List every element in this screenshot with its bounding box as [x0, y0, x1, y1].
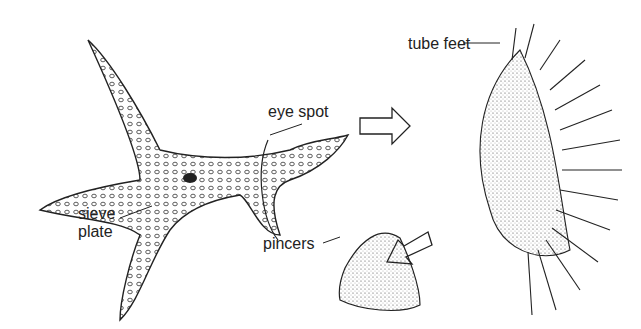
pincers-leader	[323, 237, 340, 243]
label-tube-feet: tube feet	[408, 35, 470, 52]
label-pincers: pincers	[263, 235, 315, 252]
label-eye-spot: eye spot	[268, 103, 328, 120]
label-sieve-plate-line2: plate	[78, 223, 113, 240]
arrow-right-icon	[360, 108, 410, 144]
starfish-body	[40, 40, 348, 320]
starfish-illustration	[0, 0, 641, 329]
arm-closeup	[480, 24, 622, 315]
label-sieve-plate-line1: sieve	[78, 205, 115, 222]
eye-spot-leader	[270, 124, 302, 135]
mouth-center	[183, 173, 197, 183]
